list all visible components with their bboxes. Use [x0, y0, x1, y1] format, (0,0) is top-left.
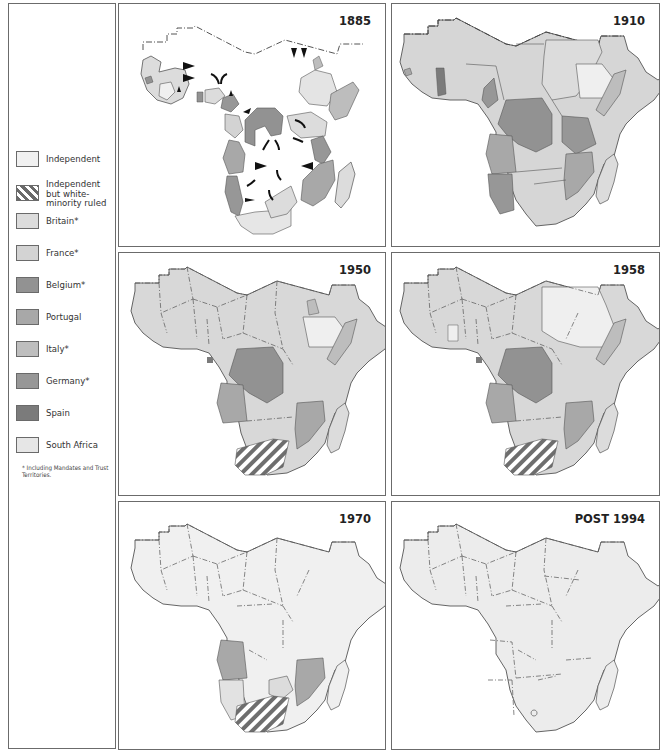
legend-footnote: * Including Mandates and Trust Territori… — [22, 464, 117, 478]
map-panel-post-1994: POST 1994 — [391, 501, 660, 750]
legend-item-white-minority: Independent but white- minority ruled — [16, 179, 106, 208]
map-legend: Independent Independent but white- minor… — [8, 3, 116, 749]
africa-map-1958 — [392, 253, 660, 496]
map-panel-1958: 1958 — [391, 252, 660, 496]
map-panel-1950: 1950 — [118, 252, 386, 496]
map-panel-1970: 1970 — [118, 501, 386, 750]
legend-item-independent: Independent — [16, 151, 100, 167]
legend-label: Independent but white- minority ruled — [46, 179, 106, 208]
swatch-italy — [16, 341, 39, 357]
legend-label: Britain* — [46, 216, 78, 226]
swatch-france — [16, 245, 39, 261]
africa-map-1910 — [392, 4, 660, 247]
legend-item-south-africa: South Africa — [16, 437, 98, 453]
swatch-germany — [16, 373, 39, 389]
legend-label: Independent — [46, 154, 100, 164]
swatch-spain — [16, 405, 39, 421]
legend-item-portugal: Portugal — [16, 309, 81, 325]
legend-label: Portugal — [46, 312, 81, 322]
africa-map-1970 — [119, 502, 386, 750]
legend-item-belgium: Belgium* — [16, 277, 85, 293]
legend-label: Spain — [46, 408, 70, 418]
africa-map-post-1994 — [392, 502, 660, 750]
legend-label: Italy* — [46, 344, 69, 354]
legend-label: Germany* — [46, 376, 90, 386]
swatch-white-minority — [16, 185, 39, 201]
swatch-south-africa — [16, 437, 39, 453]
legend-item-italy: Italy* — [16, 341, 69, 357]
legend-item-france: France* — [16, 245, 79, 261]
legend-item-germany: Germany* — [16, 373, 90, 389]
legend-label: Belgium* — [46, 280, 85, 290]
map-panel-1910: 1910 — [391, 3, 660, 247]
swatch-portugal — [16, 309, 39, 325]
africa-map-1885 — [119, 4, 386, 247]
map-panel-1885: 1885 — [118, 3, 386, 247]
swatch-belgium — [16, 277, 39, 293]
legend-label: South Africa — [46, 440, 98, 450]
legend-item-britain: Britain* — [16, 213, 78, 229]
swatch-britain — [16, 213, 39, 229]
legend-label: France* — [46, 248, 79, 258]
swatch-independent — [16, 151, 39, 167]
legend-item-spain: Spain — [16, 405, 70, 421]
africa-map-1950 — [119, 253, 386, 496]
